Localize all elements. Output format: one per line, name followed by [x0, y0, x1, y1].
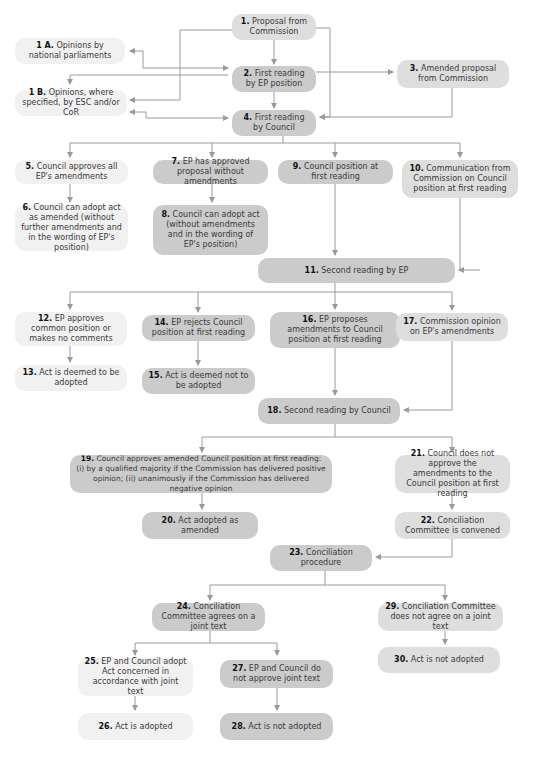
node-8-council-adopt-act: 8. Council can adopt act (without amendm…: [153, 205, 268, 255]
node-number: 8.: [161, 210, 170, 219]
node-text: Council can adopt act as amended (withou…: [21, 203, 122, 252]
node-28-act-is-not-adopted: 28. Act is not adopted: [220, 713, 333, 740]
node-21-council-does-not-approve: 21. Council does not approve the amendme…: [395, 455, 510, 493]
node-number: 1 B.: [29, 88, 47, 97]
node-11-second-reading-ep: 11. Second reading by EP: [258, 258, 455, 283]
node-text: Act is not adopted: [411, 655, 484, 664]
node-number: 27.: [232, 664, 246, 673]
node-text: Second reading by EP: [321, 266, 408, 275]
node-number: 2.: [244, 69, 253, 78]
node-number: 6.: [22, 203, 31, 212]
node-23-conciliation-procedure: 23. Conciliation procedure: [270, 545, 372, 571]
node-text: First reading by Council: [253, 113, 304, 132]
node-number: 14.: [154, 318, 168, 327]
node-text: Conciliation Committee agrees on a joint…: [161, 602, 255, 631]
node-text: Council position at first reading: [304, 162, 378, 181]
node-6-council-adopt-as-amended: 6. Council can adopt act as amended (wit…: [15, 205, 128, 251]
node-number: 17.: [403, 317, 417, 326]
node-number: 3.: [410, 64, 419, 73]
node-number: 10.: [410, 164, 424, 173]
node-text: Commission opinion on EP's amendments: [410, 317, 501, 336]
node-26-act-is-adopted: 26. Act is adopted: [78, 713, 193, 740]
node-number: 22.: [421, 516, 435, 525]
node-text: Act is deemed not to be adopted: [165, 371, 248, 390]
node-number: 16.: [302, 315, 316, 324]
node-number: 26.: [98, 722, 112, 731]
node-text: Conciliation Committee does not agree on…: [390, 602, 495, 631]
node-number: 28.: [232, 722, 246, 731]
node-text: Act is not adopted: [248, 722, 321, 731]
node-13-act-deemed-adopted: 13. Act is deemed to be adopted: [15, 365, 127, 391]
node-number: 18.: [267, 406, 281, 415]
node-1a-opinions-national-parliaments: 1 A. Opinions by national parliaments: [15, 38, 125, 64]
node-16-ep-proposes-amendments: 16. EP proposes amendments to Council po…: [270, 312, 400, 348]
node-number: 29.: [385, 602, 399, 611]
node-text: Amended proposal from Commission: [418, 64, 496, 83]
node-text: Act is adopted: [115, 722, 172, 731]
node-number: 9.: [293, 162, 302, 171]
node-19-council-approves-amended-position: 19. Council approves amended Council pos…: [70, 455, 332, 493]
node-27-ep-council-do-not-approve: 27. EP and Council do not approve joint …: [220, 660, 333, 688]
node-number: 30.: [394, 655, 408, 664]
node-text: Conciliation procedure: [301, 548, 353, 567]
node-number: 25.: [85, 657, 99, 666]
node-22-conciliation-committee-convened: 22. Conciliation Committee is convened: [395, 512, 510, 539]
node-25-ep-council-adopt-act: 25. EP and Council adopt Act concerned i…: [78, 658, 193, 696]
node-3-amended-proposal: 3. Amended proposal from Commission: [397, 60, 509, 88]
node-text: Communication from Commission on Council…: [413, 164, 510, 193]
node-30-act-is-not-adopted: 30. Act is not adopted: [378, 647, 500, 673]
node-text: EP and Council adopt Act concerned in ac…: [93, 657, 187, 696]
node-number: 19.: [81, 454, 94, 463]
node-text: Council approves all EP's amendments: [36, 162, 118, 181]
node-text: First reading by EP position: [246, 69, 305, 88]
node-5-council-approves-amendments: 5. Council approves all EP's amendments: [15, 160, 128, 184]
node-29-committee-does-not-agree: 29. Conciliation Committee does not agre…: [378, 603, 503, 631]
node-17-commission-opinion: 17. Commission opinion on EP's amendment…: [396, 313, 508, 341]
node-number: 7.: [171, 157, 180, 166]
node-24-committee-agrees-joint-text: 24. Conciliation Committee agrees on a j…: [152, 603, 265, 631]
node-number: 11.: [305, 266, 319, 275]
node-20-act-adopted-as-amended: 20. Act adopted as amended: [142, 512, 258, 539]
node-text: Council approves amended Council positio…: [76, 454, 325, 493]
node-15-act-deemed-not-adopted: 15. Act is deemed not to be adopted: [142, 368, 255, 394]
node-number: 23.: [289, 548, 303, 557]
node-number: 13.: [23, 368, 37, 377]
node-number: 4.: [244, 113, 253, 122]
node-1b-opinions-esc-cor: 1 B. Opinions, where specified, by ESC a…: [15, 90, 127, 116]
node-4-first-reading-council: 4. First reading by Council: [232, 110, 316, 136]
node-number: 5.: [26, 162, 35, 171]
node-text: Council can adopt act (without amendment…: [166, 210, 259, 249]
node-number: 21.: [411, 449, 425, 458]
node-number: 12.: [38, 314, 52, 323]
node-7-ep-approved-without-amendments: 7. EP has approved proposal without amen…: [153, 160, 268, 184]
node-1-proposal-from-commission: 1. Proposal from Commission: [232, 14, 316, 40]
node-14-ep-rejects-council-position: 14. EP rejects Council position at first…: [142, 315, 255, 341]
node-number: 1 A.: [36, 41, 54, 50]
node-text: Act is deemed to be adopted: [39, 368, 119, 387]
node-text: EP and Council do not approve joint text: [233, 664, 321, 683]
node-text: Conciliation Committee is convened: [405, 516, 500, 535]
node-text: Proposal from Commission: [250, 17, 308, 36]
node-number: 15.: [149, 371, 163, 380]
node-18-second-reading-council: 18. Second reading by Council: [258, 398, 400, 424]
node-9-council-position: 9. Council position at first reading: [278, 160, 393, 184]
node-number: 24.: [177, 602, 191, 611]
node-number: 20.: [162, 516, 176, 525]
node-10-communication-from-commission: 10. Communication from Commission on Cou…: [402, 160, 518, 198]
node-number: 1.: [241, 17, 250, 26]
node-text: Act adopted as amended: [178, 516, 238, 535]
node-2-first-reading-ep: 2. First reading by EP position: [232, 66, 316, 92]
node-12-ep-approves-common-position: 12. EP approves common position or makes…: [15, 312, 127, 346]
node-text: Second reading by Council: [284, 406, 391, 415]
node-text: EP has approved proposal without amendme…: [177, 157, 250, 186]
